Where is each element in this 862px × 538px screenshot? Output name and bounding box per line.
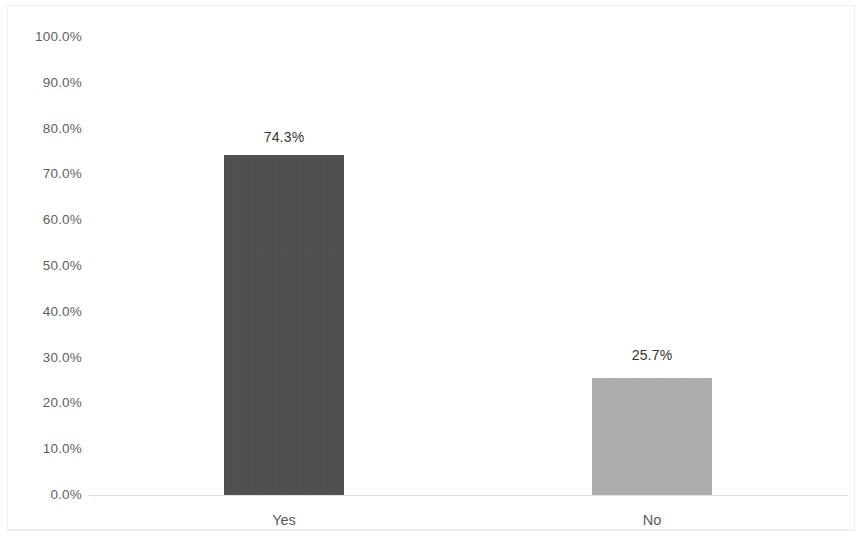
y-axis-tick: 70.0% xyxy=(0,168,82,182)
y-axis-tick: 50.0% xyxy=(0,259,82,273)
category-label-yes: Yes xyxy=(184,513,384,528)
x-axis-line xyxy=(88,495,848,496)
figure-border-bottom xyxy=(7,530,856,531)
y-axis-tick: 100.0% xyxy=(0,30,82,44)
y-axis-tick: 30.0% xyxy=(0,351,82,365)
y-axis-tick: 60.0% xyxy=(0,213,82,227)
category-label-no: No xyxy=(552,513,752,528)
y-axis-tick: 80.0% xyxy=(0,122,82,136)
y-axis-tick: 40.0% xyxy=(0,305,82,319)
y-axis-tick-labels: 100.0% 90.0% 80.0% 70.0% 60.0% 50.0% 40.… xyxy=(0,0,82,538)
bar-chart-figure: 100.0% 90.0% 80.0% 70.0% 60.0% 50.0% 40.… xyxy=(0,0,862,538)
y-axis-tick: 0.0% xyxy=(0,488,82,502)
bar-value-label-no: 25.7% xyxy=(572,348,732,362)
bar-yes[interactable] xyxy=(224,155,344,496)
bar-no[interactable] xyxy=(592,378,712,496)
y-axis-tick: 10.0% xyxy=(0,442,82,456)
y-axis-tick: 90.0% xyxy=(0,76,82,90)
plot-area: 74.3% Yes 25.7% No xyxy=(88,37,848,496)
bar-value-label-yes: 74.3% xyxy=(204,130,364,144)
y-axis-tick: 20.0% xyxy=(0,397,82,411)
